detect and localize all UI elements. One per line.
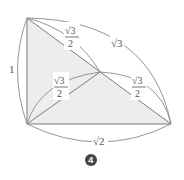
label-inner-left-num: √3 <box>54 75 65 86</box>
label-inner-left-den: 2 <box>57 88 62 99</box>
label-top-diagonal-den: 2 <box>68 38 73 49</box>
label-outer-arc: √3 <box>111 37 123 49</box>
label-inner-right-den: 2 <box>135 88 140 99</box>
geometry-diagram: 1 √3 2 √3 √3 2 √3 2 √2 4 <box>0 0 184 180</box>
label-inner-right-num: √3 <box>132 75 143 86</box>
label-left-edge: 1 <box>9 63 15 75</box>
figure-number-text: 4 <box>88 155 93 165</box>
arc-left-edge <box>18 18 28 124</box>
label-bottom-edge: √2 <box>93 135 105 147</box>
label-top-diagonal-num: √3 <box>65 25 76 36</box>
